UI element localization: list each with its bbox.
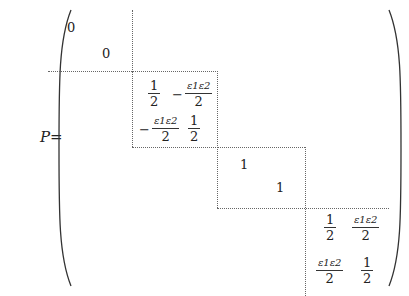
partition-line — [217, 147, 305, 148]
partition-line — [217, 208, 389, 209]
matrix-entry: ε1ε22 — [352, 213, 379, 243]
left-paren — [55, 0, 75, 296]
matrix-entry: 0 — [102, 46, 110, 61]
matrix-entry: 1 — [240, 157, 248, 172]
matrix-entry: − ε1ε22 — [139, 114, 179, 144]
matrix-entry: 12 — [324, 213, 336, 243]
matrix-entry: ε1ε22 — [316, 256, 343, 286]
partition-line — [305, 147, 306, 296]
partition-line — [217, 71, 218, 208]
right-paren — [385, 0, 405, 296]
partition-line — [48, 71, 218, 72]
partition-line — [132, 10, 133, 72]
matrix-entry: 12 — [148, 79, 160, 109]
partition-line — [132, 71, 133, 147]
matrix-entry: 12 — [188, 114, 200, 144]
matrix-entry: 1 — [276, 180, 284, 195]
partition-line — [132, 147, 218, 148]
matrix-entry: − ε1ε22 — [172, 79, 212, 109]
matrix-entry: 0 — [67, 20, 75, 35]
matrix-entry: 12 — [361, 256, 373, 286]
